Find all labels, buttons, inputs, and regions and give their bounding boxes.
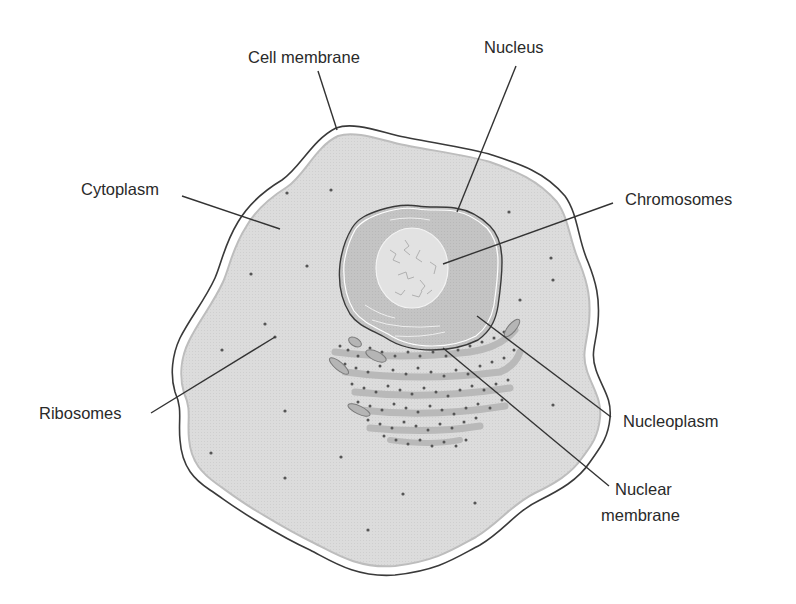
leader-cell-membrane [318,71,337,130]
label-nuclear-membrane-line1: Nuclear [615,480,672,498]
label-nucleoplasm: Nucleoplasm [623,412,718,430]
label-nuclear-membrane-line2: membrane [601,506,680,524]
cell-diagram: Cell membrane Nucleus Cytoplasm Chromoso… [0,0,796,604]
label-chromosomes: Chromosomes [625,190,732,208]
label-cytoplasm: Cytoplasm [81,180,159,198]
cell-body [172,126,610,575]
label-cell-membrane: Cell membrane [248,48,360,66]
label-ribosomes: Ribosomes [39,404,122,422]
label-nucleus: Nucleus [484,38,544,56]
chromosome-region [376,228,448,308]
